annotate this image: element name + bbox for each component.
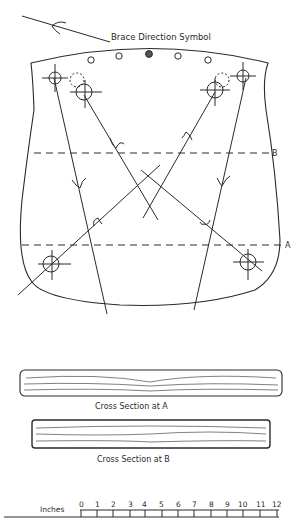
tick-label: 11 — [256, 500, 266, 509]
cross-section-a-graphic — [20, 370, 282, 396]
cross-section-b-label: Cross Section at B — [97, 455, 170, 464]
cut-line-b-label: B — [272, 149, 278, 158]
tick-label: 5 — [159, 500, 164, 509]
tick-label: 6 — [176, 500, 181, 509]
scale-unit-label: Inches — [40, 505, 64, 514]
guitar-top-bracing-diagram: Brace Direction Symbol B A — [0, 0, 307, 520]
tick-label: 10 — [238, 500, 248, 509]
scale-tick-labels: 0 1 2 3 4 5 6 7 8 9 10 11 12 — [79, 500, 282, 509]
brace-direction-symbol — [22, 16, 110, 42]
tick-label: 0 — [79, 500, 84, 509]
cross-section-b-graphic — [32, 420, 270, 448]
tick-label: 8 — [209, 500, 214, 509]
tick-label: 12 — [272, 500, 282, 509]
tick-label: 7 — [192, 500, 197, 509]
brace-direction-symbol-label: Brace Direction Symbol — [111, 32, 211, 42]
cut-line-a-label: A — [285, 241, 291, 250]
tick-label: 9 — [225, 500, 230, 509]
tick-label: 3 — [128, 500, 133, 509]
brace-direction-arrows — [72, 132, 230, 226]
pin-holes — [88, 51, 211, 64]
tick-label: 1 — [95, 500, 100, 509]
cut-lines — [22, 153, 282, 245]
tick-label: 4 — [142, 500, 147, 509]
reference-circles — [38, 62, 264, 280]
braces — [18, 78, 262, 314]
tick-label: 2 — [111, 500, 116, 509]
cross-section-a-label: Cross Section at A — [95, 402, 168, 411]
